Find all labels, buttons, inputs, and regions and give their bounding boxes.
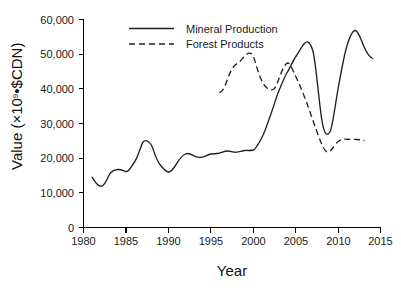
x-axis-title-text: Year <box>217 262 247 279</box>
y-tick-label: 60,000 <box>40 14 74 26</box>
y-tick-label: 50,000 <box>40 48 74 60</box>
chart-figure: 60,000 50,000 40,000 30,000 20,000 10,00… <box>0 0 401 288</box>
x-tick-label: 1985 <box>114 235 138 247</box>
x-axis-title: Year <box>217 262 247 279</box>
y-tick-label: 20,000 <box>40 152 74 164</box>
legend-label-mineral-production: Mineral Production <box>186 23 278 35</box>
y-axis-title-prefix: Value (×10 <box>8 98 25 170</box>
y-tick-label: 40,000 <box>40 83 74 95</box>
x-tick-label: 1990 <box>156 235 180 247</box>
y-tick-label: 0 <box>68 222 74 234</box>
y-tick-label: 10,000 <box>40 187 74 199</box>
x-tick-label: 1980 <box>71 235 95 247</box>
x-tick-label: 2010 <box>326 235 350 247</box>
svg-text:Value (×109•$CDN): Value (×109•$CDN) <box>8 43 25 170</box>
y-axis-title-suffix: •$CDN) <box>8 43 25 94</box>
x-tick-label: 2000 <box>241 235 265 247</box>
y-axis-title: Value (×109•$CDN) <box>8 43 25 170</box>
legend-label-forest-products: Forest Products <box>186 38 264 50</box>
y-tick-label: 30,000 <box>40 118 74 130</box>
line-chart: 60,000 50,000 40,000 30,000 20,000 10,00… <box>0 0 401 288</box>
x-tick-label: 1995 <box>199 235 223 247</box>
x-tick-label: 2015 <box>368 235 392 247</box>
x-tick-label: 2005 <box>284 235 308 247</box>
